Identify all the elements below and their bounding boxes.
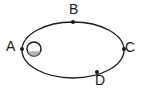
orbit-point-label-a: A <box>6 39 15 53</box>
orbit-point-label-b: B <box>69 2 78 16</box>
central-body-shading-icon <box>27 51 40 56</box>
orbit-point-label-c: C <box>125 40 135 54</box>
orbit-point-marker-b <box>71 20 75 24</box>
orbit-point-label-d: D <box>95 73 105 87</box>
orbit-point-marker-a <box>20 47 24 51</box>
diagram-canvas: A B C D <box>0 0 144 98</box>
